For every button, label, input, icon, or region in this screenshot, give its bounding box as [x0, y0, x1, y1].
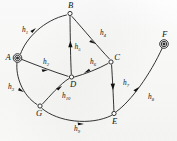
node-F-label: F — [161, 29, 168, 39]
edge-label-h1-sub: 1 — [26, 30, 28, 35]
edge-h3 — [17, 63, 37, 105]
arrowhead-h2 — [42, 69, 48, 72]
arrowhead-h8 — [133, 87, 139, 92]
arrowhead-h9 — [78, 123, 84, 126]
edge-h9 — [42, 109, 112, 126]
edge-path-h9 — [42, 109, 112, 122]
edge-h7 — [111, 65, 115, 111]
node-B-circle — [68, 11, 72, 15]
node-A[interactable]: A — [4, 52, 21, 63]
edge-h5 — [68, 17, 72, 75]
node-F-core — [163, 43, 165, 45]
edge-label-h1: h1 — [22, 25, 28, 35]
node-A-core — [16, 57, 18, 59]
edge-label-h9: h9 — [74, 124, 81, 134]
edge-label-h10: h10 — [62, 91, 71, 101]
node-B-label: B — [68, 0, 74, 10]
node-C-label: C — [114, 52, 120, 62]
node-E[interactable]: E — [111, 111, 118, 125]
edge-label-h6: h6 — [90, 57, 97, 67]
edge-label-h4-sub: 4 — [104, 33, 107, 38]
edge-path-h3 — [17, 63, 37, 105]
node-A-label: A — [4, 52, 11, 62]
node-F[interactable]: F — [160, 29, 169, 48]
edge-label-h4: h4 — [100, 28, 107, 38]
edge-label-h10-sub: 10 — [66, 96, 71, 101]
arrowhead-h5 — [68, 41, 72, 47]
edge-label-h2-sub: 2 — [47, 62, 50, 67]
node-B[interactable]: B — [68, 0, 74, 16]
edge-label-h3-sub: 3 — [12, 87, 15, 92]
arrowhead-h7 — [111, 84, 115, 90]
edge-label-h7-sub: 7 — [127, 83, 130, 88]
edge-label-h8-sub: 8 — [152, 97, 155, 102]
node-C-circle — [109, 60, 113, 64]
edge-label-h8: h8 — [148, 92, 155, 102]
node-G-label: G — [36, 108, 43, 118]
graph-canvas: A B C D E F — [0, 0, 177, 141]
node-C[interactable]: C — [109, 52, 120, 64]
edge-label-h9-sub: 9 — [78, 129, 81, 134]
figure-root: A B C D E F — [0, 0, 177, 141]
edge-label-h6-sub: 6 — [94, 62, 97, 67]
node-D-label: D — [69, 79, 77, 89]
edge-label-h7: h7 — [123, 78, 130, 88]
edge-label-h2: h2 — [43, 57, 50, 67]
node-E-label: E — [111, 116, 118, 126]
edge-label-h5-sub: 5 — [78, 47, 81, 52]
node-G[interactable]: G — [36, 104, 43, 118]
edge-label-h3: h3 — [8, 82, 15, 92]
edge-label-h5: h5 — [75, 42, 82, 52]
